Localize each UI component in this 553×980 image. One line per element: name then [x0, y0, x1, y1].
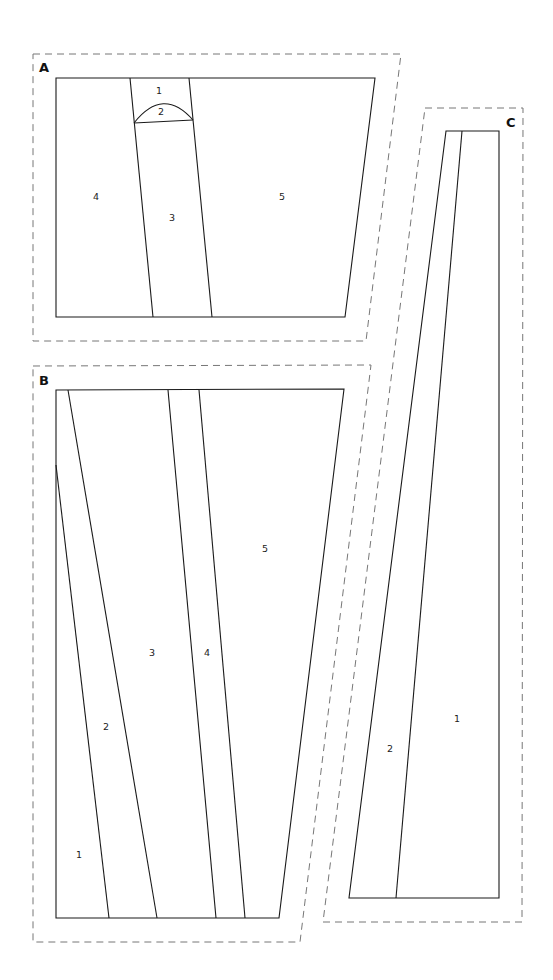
seam-line — [134, 120, 193, 123]
seam-allowance-outline — [323, 108, 523, 922]
seam-allowance-outline — [33, 54, 401, 341]
piece-number: 3 — [149, 647, 155, 658]
seam-line — [56, 465, 109, 918]
section-label: A — [39, 60, 49, 75]
diagram-canvas: A12345B12345C12 — [0, 0, 553, 980]
piece-number: 1 — [156, 85, 162, 96]
section-a: A12345 — [33, 54, 401, 341]
piece-number: 2 — [387, 743, 393, 754]
piece-number: 4 — [204, 647, 210, 658]
piece-number: 5 — [279, 191, 285, 202]
piece-number: 5 — [262, 543, 268, 554]
piece-number: 3 — [169, 212, 175, 223]
seam-line — [396, 131, 462, 898]
section-c: C12 — [323, 108, 523, 922]
section-outline — [349, 131, 499, 898]
section-label: C — [506, 115, 516, 130]
seam-line — [130, 78, 153, 317]
piece-number: 4 — [93, 191, 99, 202]
section-outline — [56, 78, 375, 317]
section-b: B12345 — [33, 365, 371, 942]
paper-piecing-diagram: A12345B12345C12 — [0, 0, 553, 980]
piece-number: 1 — [76, 849, 82, 860]
piece-number: 1 — [454, 713, 460, 724]
section-label: B — [39, 373, 49, 388]
piece-number: 2 — [103, 721, 109, 732]
seam-line — [68, 390, 157, 918]
seam-line — [189, 78, 212, 317]
piece-number: 2 — [158, 106, 164, 117]
seam-allowance-outline — [33, 365, 371, 942]
